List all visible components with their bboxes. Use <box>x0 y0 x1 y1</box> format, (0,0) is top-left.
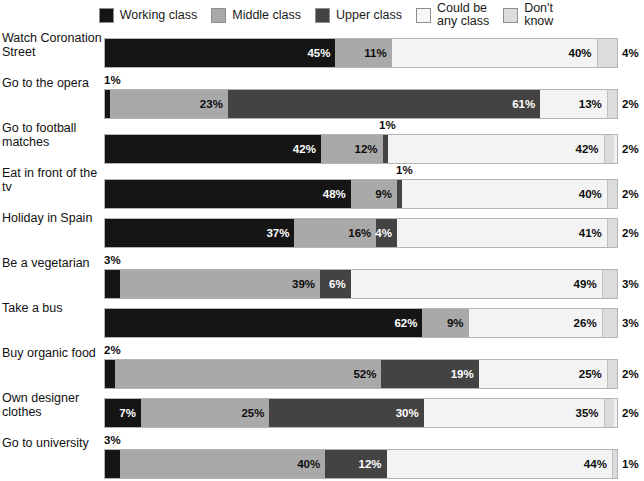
legend-label: Upper class <box>336 9 402 22</box>
bar-segment-middle: 52% <box>115 360 381 388</box>
legend-swatch-icon <box>99 8 114 23</box>
bar-segment-value: 61% <box>512 98 540 110</box>
chart-row: Take a bus62%9%26%3% <box>0 301 644 346</box>
chart-row: Eat in front of the tv1%48%9%40%2% <box>0 166 644 211</box>
bar-segment-dontknow <box>604 135 614 163</box>
legend-label: Middle class <box>232 9 301 22</box>
bar-segment-value: 12% <box>359 458 387 470</box>
bar-segment-value: 13% <box>579 98 607 110</box>
bar-segment-value: 9% <box>447 317 469 329</box>
bar-segment-upper: 6% <box>320 270 351 298</box>
bar-segment-dontknow <box>604 399 614 427</box>
bar-segment-anyclass: 49% <box>351 270 602 298</box>
bar-segment-value: 35% <box>576 407 604 419</box>
row-category-label: Go to the opera <box>2 76 102 90</box>
bar-segment-middle: 12% <box>321 135 383 163</box>
bar-segment-value-outside: 2% <box>622 98 639 110</box>
legend-label: Working class <box>120 9 198 22</box>
chart-row: Be a vegetarian3%39%6%49%3% <box>0 256 644 301</box>
bar-segment-value: 52% <box>353 368 381 380</box>
chart-row: Go to football matches1%42%12%42%2% <box>0 121 644 166</box>
chart-row: Buy organic food2%52%19%25%2% <box>0 346 644 391</box>
bar-segment-value-outside: 2% <box>622 227 639 239</box>
bar-segment-upper: 12% <box>325 450 386 478</box>
bar-segment-value: 12% <box>355 143 383 155</box>
stacked-bar: 7%25%30%35% <box>104 398 618 428</box>
bar-segment-value: 37% <box>266 227 294 239</box>
legend-swatch-icon <box>211 8 226 23</box>
bar-segment-working <box>105 270 120 298</box>
bar-segment-anyclass: 13% <box>540 90 607 118</box>
bar-segment-value-outside: 2% <box>622 143 639 155</box>
bar-segment-value: 11% <box>364 47 391 59</box>
legend-label: Could be any class <box>437 2 489 28</box>
bar-segment-middle: 9% <box>351 180 397 208</box>
legend-swatch-icon <box>416 8 431 23</box>
segment-callout-label: 3% <box>104 254 121 266</box>
bar-segment-value: 41% <box>579 227 607 239</box>
bar-segment-value: 26% <box>574 317 602 329</box>
bar-segment-value: 16% <box>348 227 376 239</box>
bar-segment-upper: 30% <box>269 399 423 427</box>
bar-segment-value-outside: 2% <box>622 407 639 419</box>
stacked-bar: 23%61%13% <box>104 89 618 119</box>
stacked-bar: 52%19%25% <box>104 359 618 389</box>
bar-segment-value: 40% <box>297 458 325 470</box>
bar-segment-working: 7% <box>105 399 141 427</box>
bar-segment-anyclass: 35% <box>424 399 604 427</box>
stacked-bar-chart: Working classMiddle classUpper classCoul… <box>0 0 644 481</box>
bar-segment-middle: 39% <box>120 270 320 298</box>
legend-item: Working class <box>99 8 198 23</box>
row-category-label: Watch Coronation Street <box>2 31 102 59</box>
bar-segment-anyclass: 40% <box>402 180 607 208</box>
bar-segment-value: 42% <box>293 143 321 155</box>
stacked-bar: 62%9%26% <box>104 308 618 338</box>
stacked-bar: 40%12%44% <box>104 449 618 479</box>
bar-segment-value-outside: 2% <box>622 368 639 380</box>
row-category-label: Take a bus <box>2 301 102 315</box>
bar-segment-value: 40% <box>579 188 607 200</box>
segment-callout-label: 2% <box>104 344 121 356</box>
row-category-label: Go to football matches <box>2 121 102 149</box>
legend-item: Upper class <box>315 8 402 23</box>
stacked-bar: 39%6%49% <box>104 269 618 299</box>
bar-segment-anyclass: 40% <box>392 39 597 67</box>
bar-segment-anyclass: 41% <box>397 219 607 247</box>
bar-segment-value: 30% <box>396 407 424 419</box>
bar-segment-dontknow <box>607 219 617 247</box>
bar-segment-value: 40% <box>569 47 597 59</box>
bar-segment-value-outside: 4% <box>622 47 639 59</box>
stacked-bar: 45%11%40% <box>104 38 618 68</box>
chart-row: Watch Coronation Street45%11%40%4% <box>0 31 644 76</box>
bar-segment-value: 39% <box>292 278 320 290</box>
bar-segment-middle: 11% <box>335 39 391 67</box>
bar-segment-working: 42% <box>105 135 321 163</box>
bar-segment-value: 25% <box>241 407 269 419</box>
bar-segment-dontknow <box>607 360 617 388</box>
chart-row: Holiday in Spain37%16%4%41%2% <box>0 211 644 256</box>
bar-segment-value: 6% <box>329 278 351 290</box>
bar-segment-middle: 40% <box>120 450 325 478</box>
row-category-label: Eat in front of the tv <box>2 166 102 194</box>
bar-segment-working <box>105 360 115 388</box>
bar-segment-value-outside: 3% <box>622 278 639 290</box>
bar-segment-value: 49% <box>574 278 602 290</box>
legend-swatch-icon <box>503 8 518 23</box>
bar-segment-dontknow <box>607 180 617 208</box>
bar-segment-value-outside: 2% <box>622 188 639 200</box>
bar-segment-dontknow <box>607 90 617 118</box>
bar-segment-value-outside: 1% <box>622 458 639 470</box>
bar-segment-value: 45% <box>307 47 335 59</box>
bar-segment-value: 62% <box>394 317 422 329</box>
bar-segment-middle: 16% <box>294 219 376 247</box>
bar-segment-value: 4% <box>375 227 397 239</box>
bar-segment-working: 62% <box>105 309 422 337</box>
bar-segment-upper: 19% <box>381 360 478 388</box>
bar-segment-working: 45% <box>105 39 335 67</box>
stacked-bar: 37%16%4%41% <box>104 218 618 248</box>
bar-segment-middle: 9% <box>422 309 468 337</box>
row-category-label: Holiday in Spain <box>2 211 102 225</box>
chart-rows: Watch Coronation Street45%11%40%4%Go to … <box>0 31 644 481</box>
legend-item: Could be any class <box>416 2 489 28</box>
legend-item: Don't know <box>503 2 553 28</box>
